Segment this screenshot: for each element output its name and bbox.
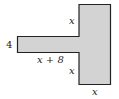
label-arm-height: 4 [6, 39, 12, 50]
label-arm-length: x + 8 [37, 54, 64, 65]
label-bottom-width: x [92, 86, 98, 97]
t-shape-diagram: 4 x + 8 x x x [0, 0, 119, 99]
label-lower-left-edge: x [69, 65, 75, 76]
label-upper-left-edge: x [69, 15, 75, 26]
t-shape [18, 5, 111, 85]
